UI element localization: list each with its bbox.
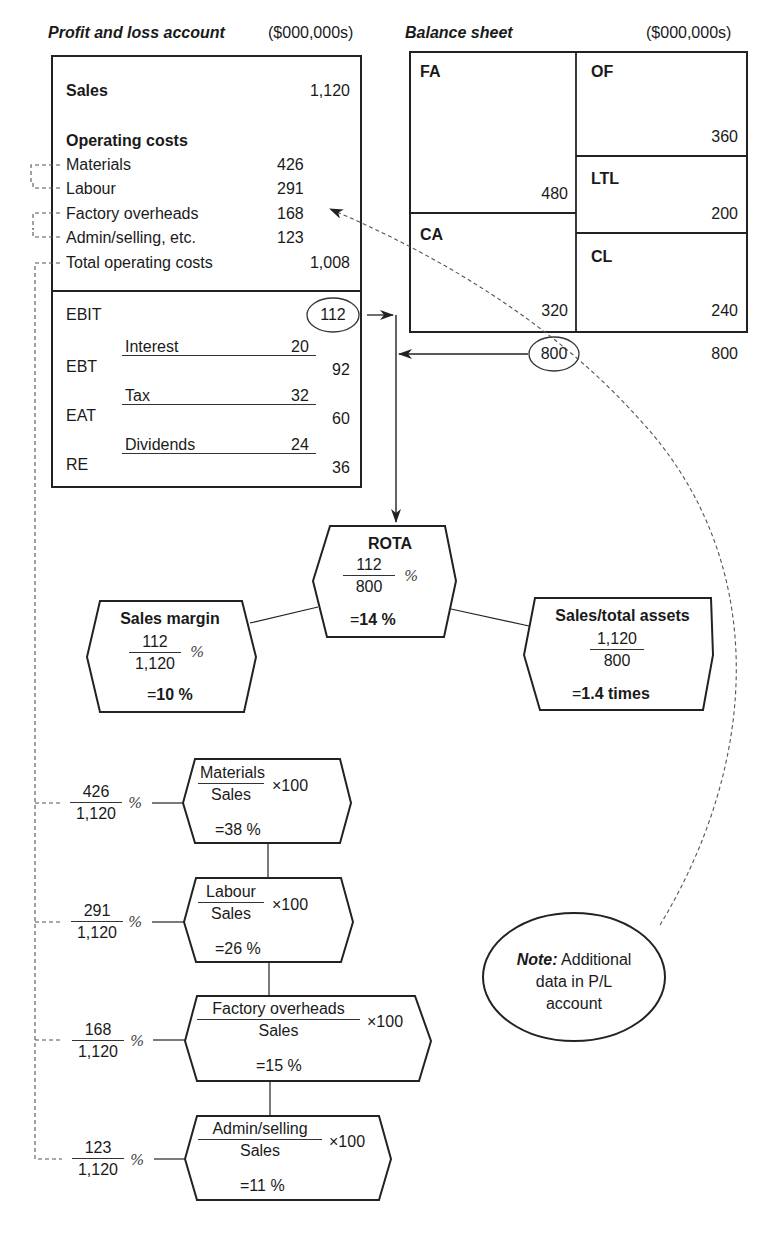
admin-selling-ratio-fraction: 1231,120 [72, 1139, 124, 1179]
admin-selling-formula: Admin/sellingSales [198, 1120, 322, 1160]
pl-interest-label: Interest [125, 338, 178, 356]
factory-overheads-result: =15 % [256, 1057, 302, 1075]
materials-ratio-fraction: 4261,120 [70, 783, 122, 823]
pl-opcost-value: 426 [277, 156, 304, 174]
bs-fa-label: FA [420, 63, 440, 81]
materials-result: =38 % [215, 821, 261, 839]
pl-ebt-value: 92 [332, 361, 350, 379]
labour-ratio-fraction: 2911,120 [71, 902, 123, 942]
bs-ltl-value: 200 [690, 205, 738, 223]
materials-formula: MaterialsSales [198, 764, 264, 804]
bs-fa-value: 480 [520, 185, 568, 203]
pl-sales-value: 1,120 [290, 82, 350, 100]
pl-opcost-label: Materials [66, 156, 131, 174]
sales-margin-pct: % [190, 643, 204, 661]
sales-margin-result: =10 % [147, 686, 193, 704]
bs-units: ($000,000s) [646, 24, 731, 42]
rota-title: ROTA [340, 535, 440, 553]
pl-tax-value: 32 [291, 387, 309, 405]
factory-overheads-ratio-fraction: 1681,120 [72, 1021, 124, 1061]
bs-of-label: OF [591, 63, 613, 81]
pl-opcost-value: 123 [277, 229, 304, 247]
admin-selling-multiplier: ×100 [329, 1133, 365, 1151]
bs-of-value: 360 [690, 128, 738, 146]
bs-cl-value: 240 [690, 302, 738, 320]
bs-ca-label: CA [420, 226, 443, 244]
bs-cl-label: CL [591, 248, 612, 266]
pl-sales-label: Sales [66, 82, 108, 100]
pl-re-value: 36 [332, 459, 350, 477]
pl-ebit-value: 112 [307, 306, 359, 324]
pl-opcosts-heading: Operating costs [66, 132, 188, 150]
pl-eat-label: EAT [66, 407, 96, 425]
pl-opcost-label: Labour [66, 180, 116, 198]
labour-ratio-pct: % [128, 913, 142, 931]
factory-overheads-ratio-pct: % [130, 1032, 144, 1050]
materials-multiplier: ×100 [272, 777, 308, 795]
pl-ebt-label: EBT [66, 358, 97, 376]
rota-pct: % [404, 567, 418, 585]
pl-eat-value: 60 [332, 410, 350, 428]
asset-turnover-result: =1.4 times [572, 685, 650, 703]
asset-turnover-fraction: 1,120 800 [590, 630, 644, 670]
bs-total-assets: 800 [529, 345, 579, 363]
admin-selling-result: =11 % [240, 1177, 285, 1195]
labour-multiplier: ×100 [272, 896, 308, 914]
factory-overheads-multiplier: ×100 [367, 1013, 403, 1031]
pl-total-label: Total operating costs [66, 254, 213, 272]
pl-total-value: 1,008 [290, 254, 350, 272]
labour-result: =26 % [215, 940, 261, 958]
factory-overheads-formula: Factory overheadsSales [197, 1000, 360, 1040]
asset-turnover-title: Sales/total assets [535, 607, 710, 625]
sales-margin-title: Sales margin [100, 610, 240, 628]
labour-formula: LabourSales [198, 883, 264, 923]
pl-opcost-label: Factory overheads [66, 205, 199, 223]
pl-title: Profit and loss account [48, 24, 225, 42]
bs-ca-value: 320 [520, 302, 568, 320]
pl-re-label: RE [66, 456, 88, 474]
rota-result: =14 % [350, 611, 396, 629]
pl-interest-value: 20 [291, 338, 309, 356]
note-text: Note: Additional data in P/L account [490, 949, 658, 1015]
bs-box [410, 52, 747, 332]
pl-opcost-value: 168 [277, 205, 304, 223]
materials-ratio-pct: % [128, 794, 142, 812]
pl-opcost-label: Admin/selling, etc. [66, 229, 196, 247]
pl-ebit-label: EBIT [66, 306, 102, 324]
pl-dividends-value: 24 [291, 436, 309, 454]
admin-selling-ratio-pct: % [130, 1151, 144, 1169]
sales-margin-fraction: 112 1,120 [129, 633, 181, 673]
bs-ltl-label: LTL [591, 170, 619, 188]
pl-dividends-label: Dividends [125, 436, 195, 454]
pl-units: ($000,000s) [268, 24, 353, 42]
pl-tax-label: Tax [125, 387, 150, 405]
bs-total-liabilities: 800 [690, 345, 738, 363]
rota-fraction: 112 800 [343, 556, 395, 596]
bs-title: Balance sheet [405, 24, 513, 42]
pl-opcost-value: 291 [277, 180, 304, 198]
